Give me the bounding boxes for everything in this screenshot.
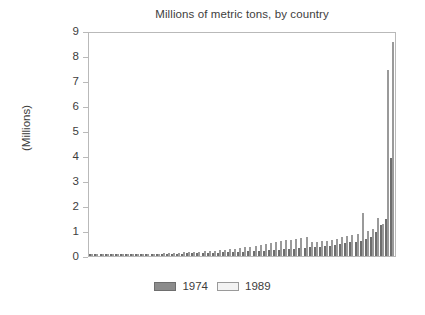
bar-1989-C3 xyxy=(102,254,104,256)
bar-1989-C46 xyxy=(321,241,323,256)
bar-1989-C30 xyxy=(239,248,241,256)
bar-1989-C37 xyxy=(275,242,277,256)
bar-1989-C54 xyxy=(362,213,364,256)
y-tick-label: 8 xyxy=(58,51,79,63)
legend-label-1974: 1974 xyxy=(182,281,208,293)
bar-1989-C14 xyxy=(158,254,160,256)
bar-1989-C53 xyxy=(357,234,359,256)
y-tick-label: 3 xyxy=(58,176,79,188)
y-tick-label: 2 xyxy=(58,201,79,213)
bar-1989-C22 xyxy=(198,252,200,256)
bar-1989-C36 xyxy=(270,243,272,256)
bar-1989-C18 xyxy=(178,253,180,256)
y-tick-label: 0 xyxy=(58,251,79,263)
chart-legend: 19741989 xyxy=(0,281,425,293)
bar-1989-C15 xyxy=(163,253,165,256)
bar-1989-C48 xyxy=(331,240,333,256)
bar-1989-C24 xyxy=(209,251,211,256)
bar-1989-C6 xyxy=(117,254,119,256)
bar-1989-C29 xyxy=(234,249,236,256)
bar-1989-C10 xyxy=(137,254,139,256)
bar-1989-C28 xyxy=(229,249,231,256)
bar-1989-C38 xyxy=(280,241,282,256)
y-tick-label: 1 xyxy=(58,226,79,238)
bar-1989-C51 xyxy=(346,236,348,256)
bar-1989-C20 xyxy=(188,252,190,256)
bar-1989-C4 xyxy=(107,254,109,256)
bar-1989-C8 xyxy=(127,254,129,256)
legend-label-1989: 1989 xyxy=(245,281,271,293)
bar-1989-C13 xyxy=(153,254,155,256)
bar-1989-C56 xyxy=(372,229,374,256)
y-tick-label: 4 xyxy=(58,151,79,163)
bar-1989-C12 xyxy=(147,254,149,256)
bar-1989-C26 xyxy=(219,250,221,256)
bar-1989-C1 xyxy=(91,254,93,256)
y-axis-label: (Millions) xyxy=(20,88,32,168)
bar-1989-C33 xyxy=(255,246,257,256)
legend-entry-1974: 1974 xyxy=(154,281,208,293)
y-tick-label: 6 xyxy=(58,101,79,113)
bar-1989-C59 xyxy=(387,70,389,256)
bar-1989-C16 xyxy=(168,253,170,256)
bar-1989-C23 xyxy=(204,251,206,256)
y-tick-label: 9 xyxy=(58,26,79,38)
bar-1989-C49 xyxy=(336,239,338,256)
bar-1989-C43 xyxy=(306,237,308,256)
bar-1989-C44 xyxy=(311,242,313,256)
bar-1989-C40 xyxy=(290,240,292,256)
legend-entry-1989: 1989 xyxy=(217,281,271,293)
bar-1989-C58 xyxy=(382,224,384,256)
bar-1989-C11 xyxy=(142,254,144,256)
bar-1989-C57 xyxy=(377,218,379,256)
bar-1989-C2 xyxy=(96,254,98,256)
bar-1989-C60 xyxy=(392,42,394,256)
bar-1989-C52 xyxy=(351,235,353,256)
bar-1989-C34 xyxy=(260,245,262,256)
legend-swatch-1974 xyxy=(154,282,176,291)
bar-1989-C32 xyxy=(249,247,251,256)
bar-1989-C9 xyxy=(132,254,134,256)
bar-1989-C41 xyxy=(295,239,297,256)
bar-1989-C25 xyxy=(214,251,216,256)
bar-1989-C17 xyxy=(173,253,175,256)
bar-1989-C7 xyxy=(122,254,124,256)
bar-1989-C50 xyxy=(341,237,343,256)
bar-1989-C42 xyxy=(300,238,302,256)
plot-area xyxy=(88,32,396,257)
legend-swatch-1989 xyxy=(217,282,239,291)
bar-1989-C47 xyxy=(326,241,328,256)
bar-1989-C45 xyxy=(316,242,318,256)
y-tick-label: 5 xyxy=(58,126,79,138)
bar-1989-C5 xyxy=(112,254,114,256)
y-tick-label: 7 xyxy=(58,76,79,88)
bars-layer xyxy=(89,33,395,256)
chart-figure: Millions of metric tons, by country (Mil… xyxy=(0,0,425,315)
bar-1989-C19 xyxy=(183,252,185,256)
chart-title: Millions of metric tons, by country xyxy=(88,8,396,20)
bar-1989-C35 xyxy=(265,244,267,256)
bar-1989-C27 xyxy=(224,250,226,256)
bar-1989-C21 xyxy=(193,252,195,256)
bar-1989-C31 xyxy=(244,247,246,256)
bar-1989-C39 xyxy=(285,240,287,256)
bar-1989-C55 xyxy=(367,231,369,256)
